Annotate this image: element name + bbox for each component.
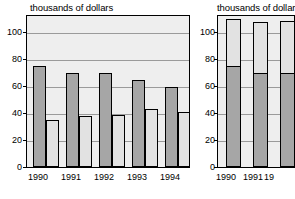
right-stack-1991-dark (253, 73, 268, 167)
left-ytick-0: 0 (0, 163, 22, 172)
right-ytick-0: 0 (195, 163, 215, 172)
right-ytick-20: 20 (195, 136, 215, 145)
left-ytick-80: 80 (0, 55, 22, 64)
left-bar-1992-light (112, 115, 125, 167)
left-bar-1993-light (145, 109, 158, 167)
left-ytick-20: 20 (0, 136, 22, 145)
left-gridline-100 (27, 33, 189, 34)
right-stack-third-light (280, 21, 295, 74)
right-stack-1991-light (253, 22, 268, 74)
left-ytickmark-0 (23, 167, 26, 168)
right-xtick-third: 19 (264, 172, 295, 182)
left-ytick-40: 40 (0, 109, 22, 118)
left-gridline-80 (27, 60, 189, 61)
left-bar-1994-light (178, 112, 190, 167)
right-stack-third-dark (280, 73, 295, 167)
left-xtick-1994: 1994 (153, 172, 187, 182)
right-plot-area (217, 15, 295, 168)
right-ytickmark-0 (214, 167, 217, 168)
left-bar-1993-dark (132, 80, 145, 167)
right-ytick-40: 40 (195, 109, 215, 118)
left-plot-area (26, 15, 190, 168)
two-bar-charts-figure: thousands of dollars 100 80 (0, 0, 295, 199)
right-ytickmark-60 (214, 86, 217, 87)
right-ytickmark-20 (214, 140, 217, 141)
left-xtick-1993: 1993 (120, 172, 154, 182)
left-ytickmark-20 (23, 140, 26, 141)
left-ytickmark-80 (23, 59, 26, 60)
left-xtick-1991: 1991 (54, 172, 88, 182)
right-ytick-80: 80 (195, 55, 215, 64)
left-ytick-100: 100 (0, 28, 22, 37)
right-ytick-100: 100 (195, 28, 215, 37)
left-ytick-60: 60 (0, 82, 22, 91)
right-stack-1990-dark (226, 66, 241, 167)
right-chart-panel: thousands of dollars 100 80 60 40 20 0 (195, 0, 295, 199)
left-chart-title: thousands of dollars (30, 2, 113, 13)
left-chart-panel: thousands of dollars 100 80 (0, 0, 193, 199)
right-ytick-60: 60 (195, 82, 215, 91)
left-bar-1990-light (46, 120, 59, 167)
left-bar-1994-dark (165, 87, 178, 167)
left-ytickmark-100 (23, 32, 26, 33)
right-chart-title: thousands of dollars (217, 2, 295, 13)
left-bar-1991-dark (66, 73, 79, 167)
left-xtick-1990: 1990 (21, 172, 55, 182)
left-xtick-1992: 1992 (87, 172, 121, 182)
left-bar-1992-dark (99, 73, 112, 167)
right-ytickmark-80 (214, 59, 217, 60)
left-bar-1991-light (79, 116, 92, 167)
left-bar-1990-dark (33, 66, 46, 167)
right-ytickmark-40 (214, 113, 217, 114)
left-ytickmark-40 (23, 113, 26, 114)
right-ytickmark-100 (214, 32, 217, 33)
left-ytickmark-60 (23, 86, 26, 87)
right-stack-1990-light (226, 19, 241, 67)
